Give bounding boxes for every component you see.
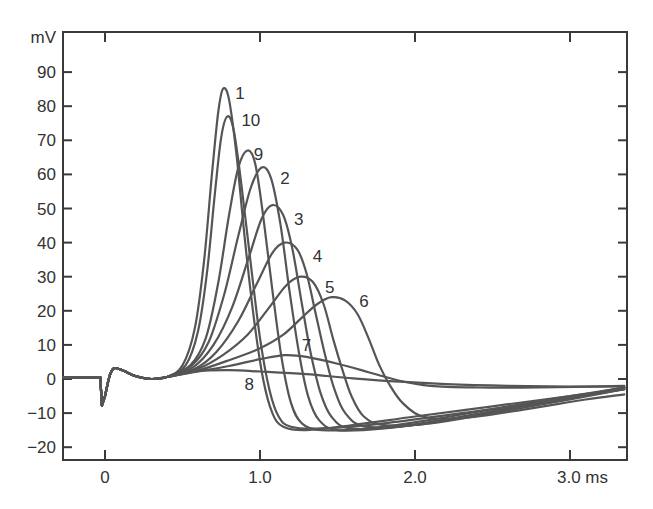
trace-3 bbox=[63, 205, 624, 429]
x-tick-label: 2.0 bbox=[403, 468, 427, 487]
plot-frame bbox=[63, 32, 627, 460]
voltage-traces bbox=[63, 88, 624, 431]
y-tick-label: 60 bbox=[37, 165, 56, 184]
curve-label-10: 10 bbox=[241, 111, 260, 130]
y-tick-label: −20 bbox=[27, 438, 56, 457]
y-axis-unit-label: mV bbox=[31, 28, 57, 47]
curve-label-7: 7 bbox=[302, 336, 311, 355]
curve-label-3: 3 bbox=[294, 210, 303, 229]
y-tick-label: 10 bbox=[37, 336, 56, 355]
curve-label-5: 5 bbox=[325, 278, 334, 297]
y-tick-label: 50 bbox=[37, 200, 56, 219]
y-tick-label: 70 bbox=[37, 131, 56, 150]
x-tick-label: 0 bbox=[100, 468, 109, 487]
curve-label-9: 9 bbox=[254, 145, 263, 164]
y-tick-label: 80 bbox=[37, 97, 56, 116]
x-tick-label: 1.0 bbox=[248, 468, 272, 487]
curve-label-1: 1 bbox=[235, 84, 244, 103]
y-axis: 9080706050403020100−10−20 bbox=[27, 63, 627, 457]
trace-10 bbox=[63, 116, 624, 428]
curve-label-8: 8 bbox=[245, 375, 254, 394]
x-axis: 01.02.03.0 ms bbox=[100, 32, 608, 487]
y-tick-label: 20 bbox=[37, 302, 56, 321]
curve-label-4: 4 bbox=[313, 247, 322, 266]
y-tick-label: 0 bbox=[47, 370, 56, 389]
y-tick-label: 30 bbox=[37, 268, 56, 287]
trace-7 bbox=[63, 355, 624, 406]
x-tick-label: 3.0 ms bbox=[557, 468, 608, 487]
y-tick-label: −10 bbox=[27, 404, 56, 423]
y-tick-label: 40 bbox=[37, 234, 56, 253]
curve-label-2: 2 bbox=[280, 169, 289, 188]
curve-label-6: 6 bbox=[359, 292, 368, 311]
y-tick-label: 90 bbox=[37, 63, 56, 82]
action-potential-chart: 9080706050403020100−10−20 01.02.03.0 ms … bbox=[0, 0, 653, 509]
